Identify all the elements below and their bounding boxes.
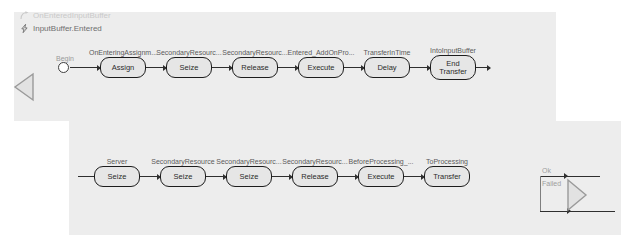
step-label: Seize bbox=[180, 64, 199, 72]
step-caption: IntoInputBuffer bbox=[430, 47, 476, 54]
step-caption: SecondaryResource bbox=[151, 158, 214, 165]
connector[interactable] bbox=[146, 62, 166, 74]
collapse-left-triangle-icon[interactable] bbox=[12, 72, 36, 106]
connector[interactable] bbox=[278, 62, 298, 74]
step-label: End Transfer bbox=[439, 60, 467, 76]
step-label: Execute bbox=[367, 173, 394, 181]
step-caption: Entered_AddOnPro... bbox=[288, 49, 355, 56]
connector[interactable] bbox=[404, 171, 424, 183]
connector-line bbox=[70, 67, 100, 68]
flow-row-bottom: Seize Server Seize SecondaryResource Sei… bbox=[78, 166, 470, 187]
step-release-secondary[interactable]: Release SecondaryResourc... bbox=[232, 57, 278, 78]
step-box[interactable]: Execute bbox=[298, 57, 344, 78]
step-seize-secondary-1[interactable]: Seize SecondaryResourc... bbox=[166, 57, 212, 78]
step-caption: SecondaryResourc... bbox=[156, 49, 221, 56]
step-release-secondary-2[interactable]: Release SecondaryResourc... bbox=[292, 166, 338, 187]
branch-failed-label: Failed bbox=[542, 180, 561, 187]
step-assign[interactable]: Assign OnEnteringAssignm... bbox=[100, 57, 146, 78]
expand-right-triangle-icon[interactable] bbox=[565, 178, 589, 216]
connector[interactable] bbox=[338, 171, 358, 183]
connector[interactable] bbox=[272, 171, 292, 183]
step-seize-secondary-3[interactable]: Seize SecondaryResourc... bbox=[226, 166, 272, 187]
connector[interactable] bbox=[206, 171, 226, 183]
connector-terminal[interactable] bbox=[476, 62, 490, 74]
step-label: Delay bbox=[377, 64, 396, 72]
step-label: Assign bbox=[112, 64, 135, 72]
step-caption: SecondaryResourc... bbox=[216, 158, 281, 165]
event-header-row[interactable]: InputBuffer.Entered bbox=[20, 24, 102, 33]
connector[interactable] bbox=[344, 62, 364, 74]
step-box[interactable]: Seize bbox=[160, 166, 206, 187]
lightning-bolt-icon bbox=[20, 24, 29, 33]
step-label: Seize bbox=[108, 173, 127, 181]
step-box[interactable]: Assign bbox=[100, 57, 146, 78]
branch-ok-label: Ok bbox=[542, 167, 551, 174]
step-caption: SecondaryResourc... bbox=[222, 49, 287, 56]
step-box[interactable]: Seize bbox=[226, 166, 272, 187]
connector-arrowhead bbox=[487, 65, 491, 71]
step-seize-secondary-2[interactable]: Seize SecondaryResource bbox=[160, 166, 206, 187]
step-label: Release bbox=[301, 173, 329, 181]
step-box[interactable]: Delay bbox=[364, 57, 410, 78]
connector[interactable] bbox=[410, 62, 430, 74]
step-delay-transferintime[interactable]: Delay TransferInTime bbox=[364, 57, 410, 78]
step-box[interactable]: Release bbox=[232, 57, 278, 78]
step-seize-server[interactable]: Seize Server bbox=[94, 166, 140, 187]
connector-entry[interactable] bbox=[78, 171, 94, 183]
start-node[interactable]: Begin bbox=[58, 62, 70, 74]
step-label: Transfer bbox=[433, 173, 461, 181]
connector[interactable] bbox=[140, 171, 160, 183]
step-caption: Server bbox=[107, 158, 128, 165]
step-caption: ToProcessing bbox=[426, 158, 468, 165]
step-caption: SecondaryResourc... bbox=[282, 158, 347, 165]
step-box[interactable]: Execute bbox=[358, 166, 404, 187]
step-box[interactable]: Transfer bbox=[424, 166, 470, 187]
start-node-label: Begin bbox=[56, 55, 74, 62]
step-label: Seize bbox=[174, 173, 193, 181]
step-end-transfer[interactable]: End Transfer IntoInputBuffer bbox=[430, 55, 476, 80]
event-header-label: InputBuffer.Entered bbox=[33, 24, 102, 33]
step-execute-beforeprocessing[interactable]: Execute BeforeProcessing_... bbox=[358, 166, 404, 187]
step-transfer-toprocessing[interactable]: Transfer ToProcessing bbox=[424, 166, 470, 187]
step-box[interactable]: Seize bbox=[166, 57, 212, 78]
step-label: Seize bbox=[240, 173, 259, 181]
step-box[interactable]: Seize bbox=[94, 166, 140, 187]
step-label: Release bbox=[241, 64, 269, 72]
step-execute-entered[interactable]: Execute Entered_AddOnPro... bbox=[298, 57, 344, 78]
step-caption: OnEnteringAssignm... bbox=[89, 49, 157, 56]
step-box[interactable]: End Transfer bbox=[430, 55, 476, 80]
start-node-circle bbox=[58, 62, 69, 73]
step-caption: BeforeProcessing_... bbox=[349, 158, 414, 165]
step-caption: TransferInTime bbox=[364, 49, 411, 56]
connector[interactable] bbox=[70, 62, 100, 74]
trigger-header-row[interactable]: OnEnteredInputBuffer bbox=[20, 11, 111, 20]
trigger-header-label: OnEnteredInputBuffer bbox=[33, 11, 111, 20]
connector[interactable] bbox=[212, 62, 232, 74]
flow-row-top: Begin Assign OnEnteringAssignm... Seize … bbox=[58, 55, 490, 80]
connector-line bbox=[78, 176, 94, 177]
arrow-curve-icon bbox=[20, 11, 29, 20]
step-box[interactable]: Release bbox=[292, 166, 338, 187]
step-label: Execute bbox=[307, 64, 334, 72]
